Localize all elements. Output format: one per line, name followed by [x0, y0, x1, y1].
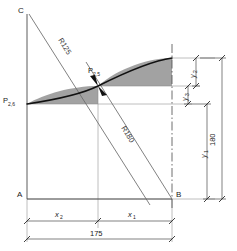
label-R125: R125	[56, 36, 73, 56]
shaded-region-left	[27, 86, 98, 104]
label-180: 180	[208, 133, 217, 146]
svg-text:2,6: 2,6	[8, 101, 15, 107]
svg-text:1: 1	[203, 150, 209, 153]
label-x1: x 1	[127, 210, 136, 220]
vertical-dimension-lines	[184, 58, 226, 199]
svg-text:x: x	[54, 210, 59, 219]
svg-text:1: 1	[133, 214, 136, 220]
label-175: 175	[90, 229, 103, 238]
diagram-canvas: C A B P 2,5 P 2,6 R125 R180 y 2 y 3 y 1 …	[0, 0, 237, 251]
svg-text:x: x	[127, 210, 132, 219]
technical-diagram: C A B P 2,5 P 2,6 R125 R180 y 2 y 3 y 1 …	[0, 0, 237, 251]
label-P-2-5: P 2,5	[88, 66, 100, 77]
label-y3: y 3	[180, 93, 190, 102]
shaded-region-right	[98, 58, 172, 86]
svg-text:2: 2	[60, 214, 63, 220]
frame-lines	[27, 14, 172, 199]
label-C: C	[18, 6, 24, 15]
label-x2: x 2	[54, 210, 63, 220]
label-A: A	[17, 190, 23, 199]
label-y2: y 2	[188, 70, 198, 79]
svg-text:2,5: 2,5	[93, 71, 100, 77]
label-y1: y 1	[199, 150, 209, 159]
svg-text:3: 3	[184, 93, 190, 96]
radius-line-R125	[29, 14, 150, 205]
svg-text:2: 2	[192, 70, 198, 73]
label-R180: R180	[119, 124, 136, 144]
label-P-2-6: P 2,6	[3, 96, 15, 107]
label-B: B	[176, 190, 181, 199]
